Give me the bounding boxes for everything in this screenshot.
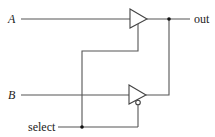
select-label: select	[28, 120, 56, 134]
output-label: out	[194, 12, 210, 26]
output-junction-dot	[167, 17, 171, 21]
bottom-buffer-output-wire	[146, 19, 169, 95]
select-junction-dot	[80, 125, 84, 129]
inversion-bubble-icon	[136, 100, 141, 105]
mux-circuit-diagram: A B select out	[0, 0, 215, 137]
input-b-label: B	[8, 88, 16, 102]
input-a-label: A	[7, 12, 16, 26]
select-to-top-enable-wire	[82, 24, 138, 127]
